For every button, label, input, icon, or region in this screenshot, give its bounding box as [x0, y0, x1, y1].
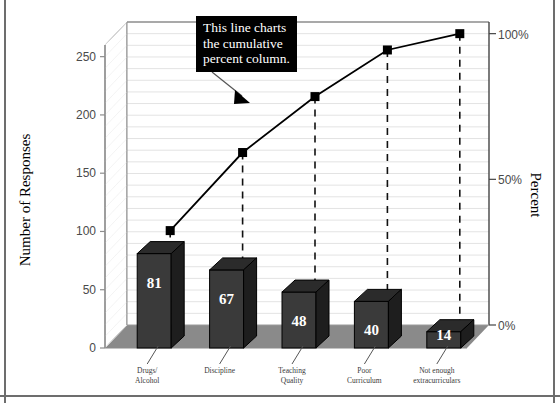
x-category-label: Drugs/ — [137, 366, 158, 375]
bar-value-label: 14 — [436, 327, 452, 343]
y2-axis-title: Percent — [528, 173, 544, 219]
cumulative-line-marker — [455, 29, 464, 38]
cumulative-percent-callout: This line charts the cumulative percent … — [196, 16, 297, 72]
cumulative-line-marker — [383, 45, 392, 54]
y-tick-label: 100 — [76, 224, 96, 238]
x-category-label: extracurriculars — [413, 376, 460, 385]
x-category-label: Teaching — [278, 366, 306, 375]
category-leader-lines — [147, 346, 448, 364]
bar-value-label: 67 — [219, 291, 235, 307]
y-axis-tick-labels: 050100150200250 — [76, 50, 105, 355]
callout-line-3: percent column. — [203, 51, 290, 67]
x-category-label: Curriculum — [347, 376, 382, 385]
cumulative-line-marker — [238, 148, 247, 157]
x-axis-category-labels: Drugs/AlcoholDisciplineTeachingQualityPo… — [135, 366, 460, 385]
callout-line-2: the cumulative — [203, 36, 290, 52]
y-tick-label: 150 — [76, 166, 96, 180]
callout-line-1: This line charts — [203, 20, 290, 36]
y-tick-label: 0 — [89, 341, 96, 355]
bar-value-label: 48 — [292, 313, 307, 329]
x-category-label: Not enough — [419, 366, 454, 375]
y2-tick-label: 0% — [498, 319, 516, 333]
y2-tick-label: 50% — [498, 173, 522, 187]
x-category-label: Discipline — [204, 366, 235, 375]
pareto-chart-figure: 050100150200250 0%50%100% 8167484014 Dru… — [0, 0, 560, 403]
x-category-label: Quality — [281, 376, 304, 385]
y-axis-title: Number of Responses — [17, 134, 33, 267]
y-tick-label: 50 — [83, 283, 97, 297]
x-category-label: Poor — [357, 366, 372, 375]
y-tick-label: 250 — [76, 50, 96, 64]
cumulative-line-marker — [166, 226, 175, 235]
cumulative-line-marker — [311, 92, 320, 101]
y2-tick-label: 100% — [498, 28, 529, 42]
x-category-label: Alcohol — [135, 376, 159, 385]
y-tick-label: 200 — [76, 108, 96, 122]
bar-value-label: 40 — [364, 322, 379, 338]
bar-value-label: 81 — [147, 275, 162, 291]
y2-axis-tick-labels: 0%50%100% — [489, 28, 529, 333]
